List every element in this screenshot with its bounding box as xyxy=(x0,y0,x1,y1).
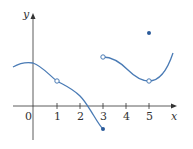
x-tick-label-5: 5 xyxy=(146,110,153,123)
x-axis-label: x xyxy=(171,110,178,123)
open-point-x5 xyxy=(147,79,151,83)
filled-point-x5 xyxy=(147,31,151,35)
x-tick-label-2: 2 xyxy=(77,110,84,123)
x-tick-label-3: 3 xyxy=(100,110,107,123)
x-tick-label-4: 4 xyxy=(123,110,130,123)
curve-right-piece xyxy=(103,53,173,81)
y-axis-arrow-icon xyxy=(31,13,36,19)
open-point-x1 xyxy=(55,79,59,83)
chart: 0 1 2 3 4 5 x y xyxy=(0,0,193,149)
y-axis-label: y xyxy=(22,8,30,21)
x-tick-label-1: 1 xyxy=(54,110,61,123)
origin-label: 0 xyxy=(25,110,32,123)
x-axis-arrow-icon xyxy=(171,104,177,109)
filled-point-x3 xyxy=(101,127,105,131)
open-point-x3 xyxy=(101,55,105,59)
